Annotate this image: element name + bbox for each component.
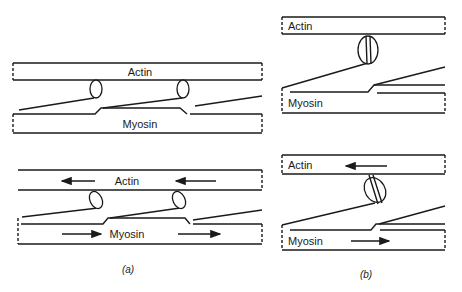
actin-label: Actin	[288, 159, 312, 171]
panel-b-top: Actin Myosin	[282, 17, 445, 113]
actin-label: Actin	[128, 66, 152, 78]
myosin-label: Myosin	[288, 235, 323, 247]
myosin-label: Myosin	[288, 97, 323, 109]
cross-bridges	[22, 189, 262, 220]
myosin-filament: Myosin	[282, 224, 445, 250]
myosin-head	[87, 189, 105, 210]
caption-a: (a)	[122, 264, 134, 275]
myosin-head	[170, 189, 188, 210]
panel-a-bottom: Actin Myosin	[18, 170, 262, 244]
actin-myosin-diagram: Actin Myosin Actin	[0, 0, 462, 292]
myosin-label: Myosin	[123, 118, 158, 130]
cross-bridges	[19, 80, 262, 110]
actin-filament: Actin	[282, 155, 445, 174]
actin-label: Actin	[288, 20, 312, 32]
panel-b-bottom: Actin Myosin	[282, 155, 445, 250]
myosin-label: Myosin	[110, 228, 145, 240]
actin-filament: Actin	[18, 170, 262, 190]
myosin-filament: Myosin	[13, 108, 262, 133]
myosin-head	[90, 80, 102, 98]
myosin-filament: Myosin	[18, 218, 262, 244]
cross-bridges	[282, 174, 445, 225]
myosin-head	[358, 36, 378, 64]
panel-a-top: Actin Myosin	[13, 63, 262, 133]
myosin-head	[177, 80, 189, 98]
myosin-filament: Myosin	[282, 85, 445, 113]
actin-filament: Actin	[13, 63, 262, 80]
cross-bridges	[282, 36, 445, 88]
actin-label: Actin	[115, 175, 139, 187]
caption-b: (b)	[360, 269, 372, 280]
myosin-head	[360, 174, 390, 207]
actin-filament: Actin	[282, 17, 445, 34]
